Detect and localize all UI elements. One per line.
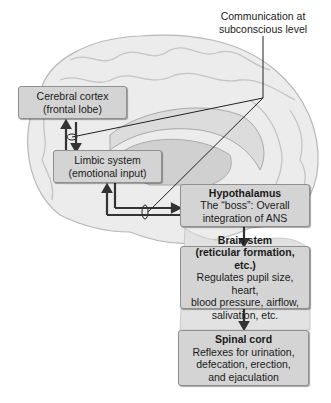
brain-stem-line-3: salivation, etc.	[212, 309, 279, 322]
spinal-cord-box: Spinal cord Reflexes for urination, defe…	[178, 330, 309, 386]
brain-stem-box: Brain stem (reticular formation, etc.) R…	[180, 246, 310, 309]
brain-stem-title: Brain stem	[218, 234, 272, 247]
limbic-system-line-2: (emotional input)	[68, 167, 146, 180]
brain-stem-title-2: (reticular formation, etc.)	[184, 246, 306, 271]
callout-line-2: subconscious level	[205, 23, 321, 36]
spinal-cord-line-2: defecation, erection,	[196, 358, 291, 371]
limbic-system-line-1: Limbic system	[74, 154, 141, 167]
callout-label: Communication at subconscious level	[205, 10, 321, 35]
cerebral-cortex-box: Cerebral cortex (frontal lobe)	[18, 86, 127, 119]
hypothalamus-title: Hypothalamus	[209, 187, 281, 200]
brain-stem-line-1: Regulates pupil size, heart,	[184, 271, 306, 296]
hypothalamus-box: Hypothalamus The “boss”: Overall integra…	[180, 184, 310, 227]
spinal-cord-line-3: and ejaculation	[208, 371, 279, 384]
spinal-cord-title: Spinal cord	[215, 333, 272, 346]
callout-line-1: Communication at	[205, 10, 321, 23]
hypothalamus-line-1: The “boss”: Overall	[200, 199, 289, 212]
hypothalamus-line-2: integration of ANS	[203, 212, 288, 225]
spinal-cord-line-1: Reflexes for urination,	[192, 346, 294, 359]
cerebral-cortex-line-2: (frontal lobe)	[43, 103, 102, 116]
cerebral-cortex-line-1: Cerebral cortex	[37, 90, 109, 103]
ans-brain-diagram: Communication at subconscious level Cere…	[0, 0, 331, 403]
limbic-system-box: Limbic system (emotional input)	[53, 150, 162, 183]
brain-stem-line-2: blood pressure, airflow,	[191, 296, 299, 309]
